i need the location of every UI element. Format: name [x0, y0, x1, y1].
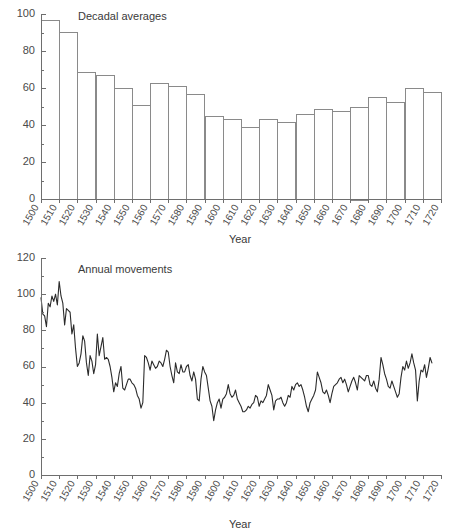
decadal-x-tick-label: 1550: [111, 202, 132, 227]
decadal-bars-group: [42, 21, 442, 201]
bar-1570-1580: [169, 87, 187, 200]
decadal-y-tick-label: 60: [23, 81, 35, 93]
bar-1550-1560: [133, 106, 151, 200]
annual-x-tick-label: 1570: [147, 478, 168, 503]
decadal-x-tick-label: 1580: [166, 202, 187, 227]
bar-1540-1550: [115, 89, 133, 200]
figure-root: Decadal averages 02040608010015001510152…: [0, 0, 460, 532]
annual-x-tick-label: 1520: [56, 478, 77, 503]
decadal-x-tick-label: 1540: [93, 202, 114, 227]
annual-x-tick-label: 1680: [347, 478, 368, 503]
decadal-x-tick-label: 1520: [56, 202, 77, 227]
bar-1630-1640: [278, 123, 296, 200]
bar-1500-1510: [42, 21, 60, 200]
annual-x-tick-label: 1660: [311, 478, 332, 503]
annual-x-tick-label: 1710: [402, 478, 423, 503]
bar-1590-1600: [206, 117, 224, 200]
annual-x-tick-label: 1720: [420, 478, 441, 503]
annual-y-tick-label: 40: [23, 396, 35, 408]
decadal-x-tick-label: 1570: [147, 202, 168, 227]
bar-1520-1530: [78, 73, 96, 200]
bar-1510-1520: [60, 33, 78, 200]
annual-line-group: [41, 282, 432, 421]
decadal-x-tick-label: 1720: [420, 202, 441, 227]
annual-x-tick-label: 1690: [366, 478, 387, 503]
decadal-panel-title: Decadal averages: [78, 10, 167, 22]
annual-x-tick-label: 1610: [220, 478, 241, 503]
decadal-x-tick-label: 1560: [129, 202, 150, 227]
annual-x-tick-label: 1550: [111, 478, 132, 503]
decadal-x-tick-label: 1600: [202, 202, 223, 227]
annual-x-tick-label: 1630: [256, 478, 277, 503]
annual-panel-title: Annual movements: [78, 263, 173, 275]
annual-axes-group: 0204060801001201500151015201530154015501…: [17, 251, 442, 503]
annual-x-tick-label: 1650: [293, 478, 314, 503]
bar-1600-1610: [224, 120, 242, 200]
bar-1620-1630: [260, 120, 278, 200]
bar-1530-1540: [97, 76, 115, 200]
annual-x-tick-label: 1700: [384, 478, 405, 503]
annual-x-tick-label: 1600: [202, 478, 223, 503]
bar-1650-1660: [315, 110, 333, 200]
annual-x-axis-title: Year: [229, 518, 252, 530]
decadal-y-tick-label: 100: [17, 7, 35, 19]
panel-annual-movements: Annual movements 02040608010012015001510…: [17, 251, 442, 530]
decadal-x-tick-label: 1650: [293, 202, 314, 227]
decadal-x-tick-label: 1660: [311, 202, 332, 227]
decadal-x-tick-label: 1690: [366, 202, 387, 227]
bar-1580-1590: [187, 95, 205, 200]
annual-x-tick-label: 1670: [329, 478, 350, 503]
two-panel-chart: Decadal averages 02040608010015001510152…: [0, 0, 460, 532]
bar-1560-1570: [151, 84, 169, 200]
bar-1710-1720: [424, 93, 442, 200]
decadal-x-tick-label: 1610: [220, 202, 241, 227]
annual-x-tick-label: 1510: [38, 478, 59, 503]
annual-x-tick-label: 1580: [166, 478, 187, 503]
bar-1640-1650: [297, 115, 315, 200]
decadal-x-axis-title: Year: [229, 233, 252, 245]
annual-y-tick-label: 0: [29, 468, 35, 480]
annual-x-tick-label: 1500: [20, 478, 41, 503]
annual-y-tick-label: 60: [23, 359, 35, 371]
decadal-x-tick-label: 1670: [329, 202, 350, 227]
annual-x-tick-label: 1640: [275, 478, 296, 503]
annual-y-tick-label: 80: [23, 323, 35, 335]
annual-y-tick-label: 120: [17, 251, 35, 263]
annual-y-tick-label: 100: [17, 287, 35, 299]
decadal-y-tick-label: 0: [29, 192, 35, 204]
bar-1680-1690: [369, 98, 387, 200]
panel-decadal-averages: Decadal averages 02040608010015001510152…: [17, 7, 442, 245]
annual-x-tick-label: 1620: [238, 478, 259, 503]
annual-y-tick-label: 20: [23, 432, 35, 444]
decadal-x-tick-label: 1620: [238, 202, 259, 227]
decadal-x-tick-label: 1500: [20, 202, 41, 227]
decadal-x-tick-label: 1700: [384, 202, 405, 227]
decadal-x-tick-label: 1640: [275, 202, 296, 227]
decadal-y-tick-label: 20: [23, 155, 35, 167]
decadal-x-tick-label: 1710: [402, 202, 423, 227]
decadal-x-tick-label: 1510: [38, 202, 59, 227]
annual-x-tick-label: 1540: [93, 478, 114, 503]
decadal-y-tick-label: 40: [23, 118, 35, 130]
annual-x-tick-label: 1560: [129, 478, 150, 503]
decadal-x-tick-label: 1630: [256, 202, 277, 227]
bar-1660-1670: [333, 112, 351, 200]
annual-x-tick-label: 1530: [75, 478, 96, 503]
bar-1670-1680: [351, 108, 369, 201]
decadal-x-tick-label: 1590: [184, 202, 205, 227]
decadal-y-tick-label: 80: [23, 44, 35, 56]
bar-1610-1620: [242, 128, 260, 200]
decadal-x-tick-label: 1680: [347, 202, 368, 227]
bar-1690-1700: [387, 103, 405, 200]
decadal-x-tick-label: 1530: [75, 202, 96, 227]
annual-x-tick-label: 1590: [184, 478, 205, 503]
bar-1700-1710: [406, 89, 424, 200]
annual-movements-series: [41, 282, 432, 421]
